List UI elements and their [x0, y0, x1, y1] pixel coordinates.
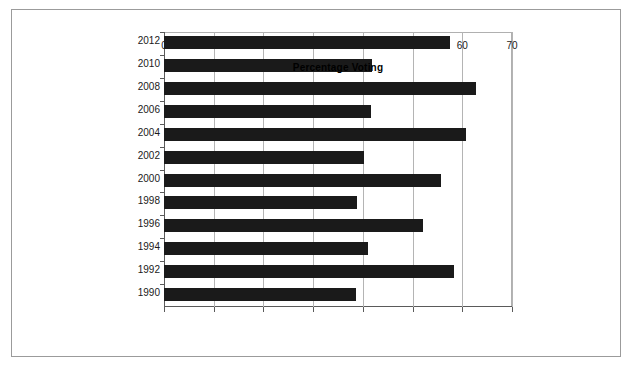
bar-2012: [164, 36, 450, 49]
bar-1992: [164, 265, 454, 278]
bar-2002: [164, 151, 364, 164]
bar-1998: [164, 196, 357, 209]
bar-2006: [164, 105, 371, 118]
y-tick-label-1998: 1998: [114, 195, 160, 206]
y-tick-2002: [160, 147, 164, 148]
chart-frame: 010203040506070 201220102008200620042002…: [11, 9, 621, 357]
bar-row: 2000: [164, 170, 512, 193]
bar-1996: [164, 219, 423, 232]
y-tick-2006: [160, 101, 164, 102]
bar-row: 1992: [164, 261, 512, 284]
bar-2008: [164, 82, 476, 95]
x-tick-30: [313, 307, 314, 312]
y-tick-1998: [160, 192, 164, 193]
x-tick-50: [413, 307, 414, 312]
y-tick-1990: [160, 284, 164, 285]
y-tick-1996: [160, 215, 164, 216]
plot-area-wrapper: 010203040506070 201220102008200620042002…: [164, 32, 512, 307]
x-tick-20: [263, 307, 264, 312]
y-tick-label-2000: 2000: [114, 173, 160, 184]
bar-row: 2004: [164, 124, 512, 147]
y-tick-label-1996: 1996: [114, 218, 160, 229]
bar-2000: [164, 174, 441, 187]
y-tick-2004: [160, 124, 164, 125]
bar-1990: [164, 288, 356, 301]
x-tick-70: [512, 307, 513, 312]
x-axis-title: Percentage Voting: [164, 62, 512, 73]
bar-1994: [164, 242, 368, 255]
y-tick-label-2010: 2010: [114, 58, 160, 69]
y-tick-2010: [160, 55, 164, 56]
bar-2004: [164, 128, 466, 141]
y-tick-2008: [160, 78, 164, 79]
bar-row: 1996: [164, 215, 512, 238]
x-tick-40: [363, 307, 364, 312]
y-tick-label-2004: 2004: [114, 127, 160, 138]
bar-row: 2008: [164, 78, 512, 101]
y-tick-label-2006: 2006: [114, 104, 160, 115]
y-tick-1994: [160, 238, 164, 239]
bar-row: 2012: [164, 32, 512, 55]
x-tick-60: [462, 307, 463, 312]
bar-row: 1990: [164, 284, 512, 307]
y-tick-label-1992: 1992: [114, 264, 160, 275]
bar-row: 2002: [164, 147, 512, 170]
y-tick-1992: [160, 261, 164, 262]
x-tick-0: [164, 307, 165, 312]
y-tick-label-1994: 1994: [114, 241, 160, 252]
y-tick-label-2012: 2012: [114, 35, 160, 46]
y-tick-2000: [160, 170, 164, 171]
y-tick-label-1990: 1990: [114, 287, 160, 298]
y-tick-label-2008: 2008: [114, 81, 160, 92]
bar-row: 2006: [164, 101, 512, 124]
bar-row: 1998: [164, 192, 512, 215]
gridline-70: [512, 32, 513, 307]
bar-row: 1994: [164, 238, 512, 261]
x-tick-10: [214, 307, 215, 312]
y-tick-label-2002: 2002: [114, 150, 160, 161]
y-tick-2012: [160, 32, 164, 33]
